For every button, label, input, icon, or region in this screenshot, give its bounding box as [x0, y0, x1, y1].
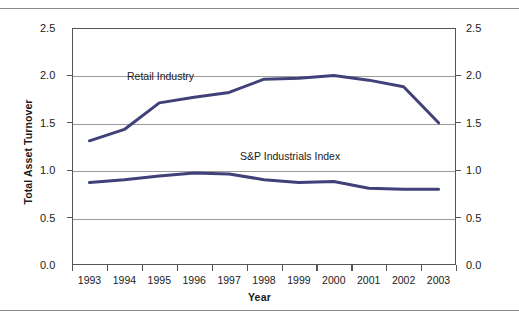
line-chart-figure: Total Asset Turnover 0.0 0.5 1.0 1.5 2.0… — [0, 0, 519, 324]
y-tick-label-left-1: 0.5 — [40, 213, 55, 224]
y-tick-label-left-3: 1.5 — [40, 118, 55, 129]
x-tickmark-7 — [316, 265, 317, 271]
gridline-1.0 — [73, 171, 455, 172]
x-tickmark-0 — [72, 265, 73, 271]
y-tickmark-left-0.5 — [67, 217, 72, 218]
x-tickmark-9 — [386, 265, 387, 271]
y-tick-label-left-4: 2.0 — [40, 70, 55, 81]
y-tickmark-left-1.5 — [67, 122, 72, 123]
gridline-0.5 — [73, 219, 455, 220]
x-tick-label-2003: 2003 — [419, 274, 459, 286]
y-tick-label-right-5: 2.5 — [466, 23, 481, 34]
series-annotation-retail-industry: Retail Industry — [127, 70, 194, 82]
y-tick-label-left-2: 1.0 — [40, 165, 55, 176]
x-tickmark-10 — [421, 265, 422, 271]
y-tick-label-right-4: 2.0 — [466, 70, 481, 81]
y-tick-label-right-2: 1.0 — [466, 165, 481, 176]
x-tickmark-3 — [177, 265, 178, 271]
gridline-1.5 — [73, 124, 455, 125]
y-tick-label-left-5: 2.5 — [40, 23, 55, 34]
y-tick-label-right-0: 0.0 — [466, 260, 481, 271]
x-tickmark-1 — [107, 265, 108, 271]
x-tickmark-6 — [282, 265, 283, 271]
y-tickmark-right-1.0 — [456, 170, 461, 171]
x-tickmark-4 — [212, 265, 213, 271]
y-tickmark-left-2.0 — [67, 75, 72, 76]
x-axis-title: Year — [0, 291, 519, 303]
y-tick-label-left-0: 0.0 — [40, 260, 55, 271]
x-tickmark-11 — [456, 265, 457, 271]
y-tickmark-right-2.0 — [456, 75, 461, 76]
x-tickmark-2 — [142, 265, 143, 271]
y-tickmark-left-1.0 — [67, 170, 72, 171]
x-tickmark-5 — [247, 265, 248, 271]
x-tickmark-8 — [351, 265, 352, 271]
y-tickmark-right-1.5 — [456, 122, 461, 123]
plot-area — [72, 28, 456, 265]
y-tick-label-right-1: 0.5 — [466, 213, 481, 224]
y-axis-title: Total Asset Turnover — [22, 72, 34, 232]
y-tick-label-right-3: 1.5 — [466, 118, 481, 129]
y-tickmark-right-0.5 — [456, 217, 461, 218]
series-annotation-sp-industrials-index: S&P Industrials Index — [240, 150, 340, 162]
